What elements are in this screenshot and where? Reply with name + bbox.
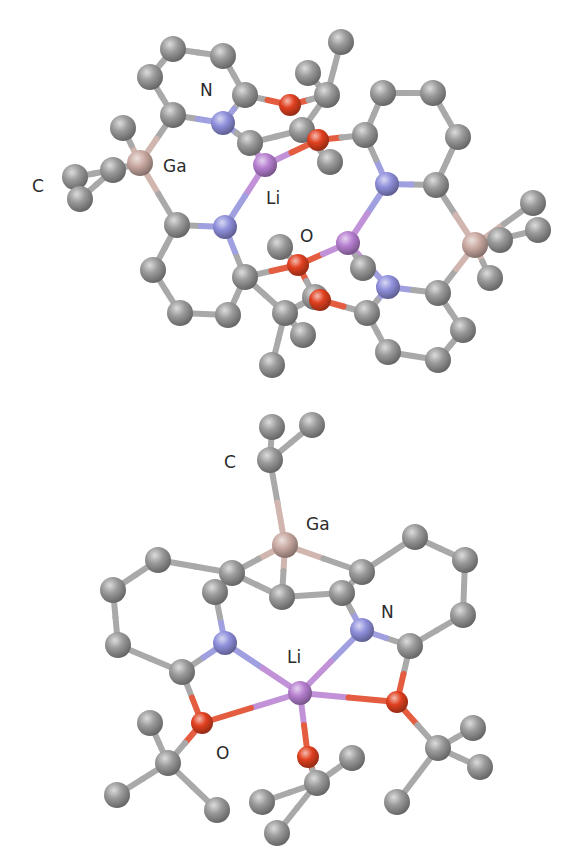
carbon-atom [425, 735, 451, 761]
lithium-atom [253, 153, 277, 177]
gallium-atom [272, 532, 298, 558]
carbon-atom [160, 102, 186, 128]
carbon-atom [397, 633, 423, 659]
carbon-atom [269, 584, 295, 610]
carbon-atom [370, 80, 396, 106]
carbon-atom [264, 820, 290, 846]
carbon-atom [487, 227, 513, 253]
carbon-atom [259, 414, 285, 440]
carbon-atom [384, 789, 410, 815]
carbon-atom [267, 234, 293, 260]
oxygen-atom [287, 254, 309, 276]
carbon-atom [232, 264, 258, 290]
element-label-c: C [224, 452, 236, 472]
oxygen-atom [297, 746, 319, 768]
carbon-atom [317, 149, 343, 175]
carbon-atom [445, 124, 471, 150]
carbon-atom [237, 130, 263, 156]
oxygen-atom [386, 691, 408, 713]
carbon-atom [299, 412, 325, 438]
lithium-atom [336, 231, 360, 255]
carbon-atom [375, 339, 401, 365]
carbon-atom [425, 280, 451, 306]
carbon-atom [314, 82, 340, 108]
carbon-atom [110, 115, 136, 141]
carbon-atom [328, 29, 354, 55]
carbon-atom [155, 750, 181, 776]
lithium-atom [288, 681, 312, 705]
carbon-atom [329, 580, 355, 606]
carbon-atom [525, 217, 551, 243]
top-bonds [75, 42, 538, 365]
carbon-atom [259, 352, 285, 378]
carbon-atom [304, 770, 330, 796]
molecular-structure-figure: NGaCLiO CGaNLiO [0, 0, 583, 865]
top-crystal-structure: NGaCLiO [32, 29, 551, 378]
carbon-atom [350, 255, 376, 281]
carbon-atom [477, 265, 503, 291]
top-atoms [62, 29, 551, 378]
carbon-atom [67, 186, 93, 212]
carbon-atom [349, 559, 375, 585]
carbon-atom [62, 164, 88, 190]
nitrogen-atom [350, 618, 374, 642]
gallium-atom [127, 150, 153, 176]
carbon-atom [210, 43, 236, 69]
carbon-atom [420, 80, 446, 106]
nitrogen-atom [375, 172, 399, 196]
carbon-atom [354, 300, 380, 326]
nitrogen-atom [213, 631, 237, 655]
element-label-c: C [32, 176, 44, 196]
carbon-atom [450, 602, 476, 628]
carbon-atom [202, 579, 228, 605]
carbon-atom [169, 659, 195, 685]
carbon-atom [104, 782, 130, 808]
nitrogen-atom [211, 111, 235, 135]
nitrogen-atom [376, 275, 400, 299]
carbon-atom [272, 300, 298, 326]
oxygen-atom [307, 129, 329, 151]
carbon-atom [257, 447, 283, 473]
carbon-atom [204, 797, 230, 823]
bottom-crystal-structure: CGaNLiO [100, 412, 493, 846]
oxygen-atom [279, 94, 301, 116]
carbon-atom [450, 317, 476, 343]
carbon-atom [105, 632, 131, 658]
carbon-atom [520, 190, 546, 216]
element-label-li: Li [266, 188, 280, 208]
carbon-atom [140, 257, 166, 283]
carbon-atom [137, 710, 163, 736]
element-label-o: O [300, 226, 313, 246]
element-label-li: Li [287, 647, 301, 667]
carbon-atom [460, 715, 486, 741]
carbon-atom [402, 524, 428, 550]
carbon-atom [339, 745, 365, 771]
carbon-atom [137, 64, 163, 90]
carbon-atom [352, 122, 378, 148]
gallium-atom [462, 232, 488, 258]
carbon-atom [467, 754, 493, 780]
element-label-n: N [200, 80, 213, 100]
carbon-atom [164, 212, 190, 238]
carbon-atom [423, 172, 449, 198]
carbon-atom [425, 347, 451, 373]
oxygen-atom [191, 712, 213, 734]
carbon-atom [249, 789, 275, 815]
carbon-atom [232, 82, 258, 108]
carbon-atom [452, 547, 478, 573]
carbon-atom [160, 36, 186, 62]
element-label-o: O [216, 743, 229, 763]
carbon-atom [215, 302, 241, 328]
element-label-ga: Ga [306, 514, 330, 534]
oxygen-atom [309, 289, 331, 311]
carbon-atom [145, 547, 171, 573]
nitrogen-atom [213, 215, 237, 239]
carbon-atom [295, 60, 321, 86]
element-label-ga: Ga [163, 156, 187, 176]
carbon-atom [100, 577, 126, 603]
element-label-n: N [381, 602, 394, 622]
carbon-atom [290, 322, 316, 348]
carbon-atom [167, 300, 193, 326]
carbon-atom [100, 157, 126, 183]
